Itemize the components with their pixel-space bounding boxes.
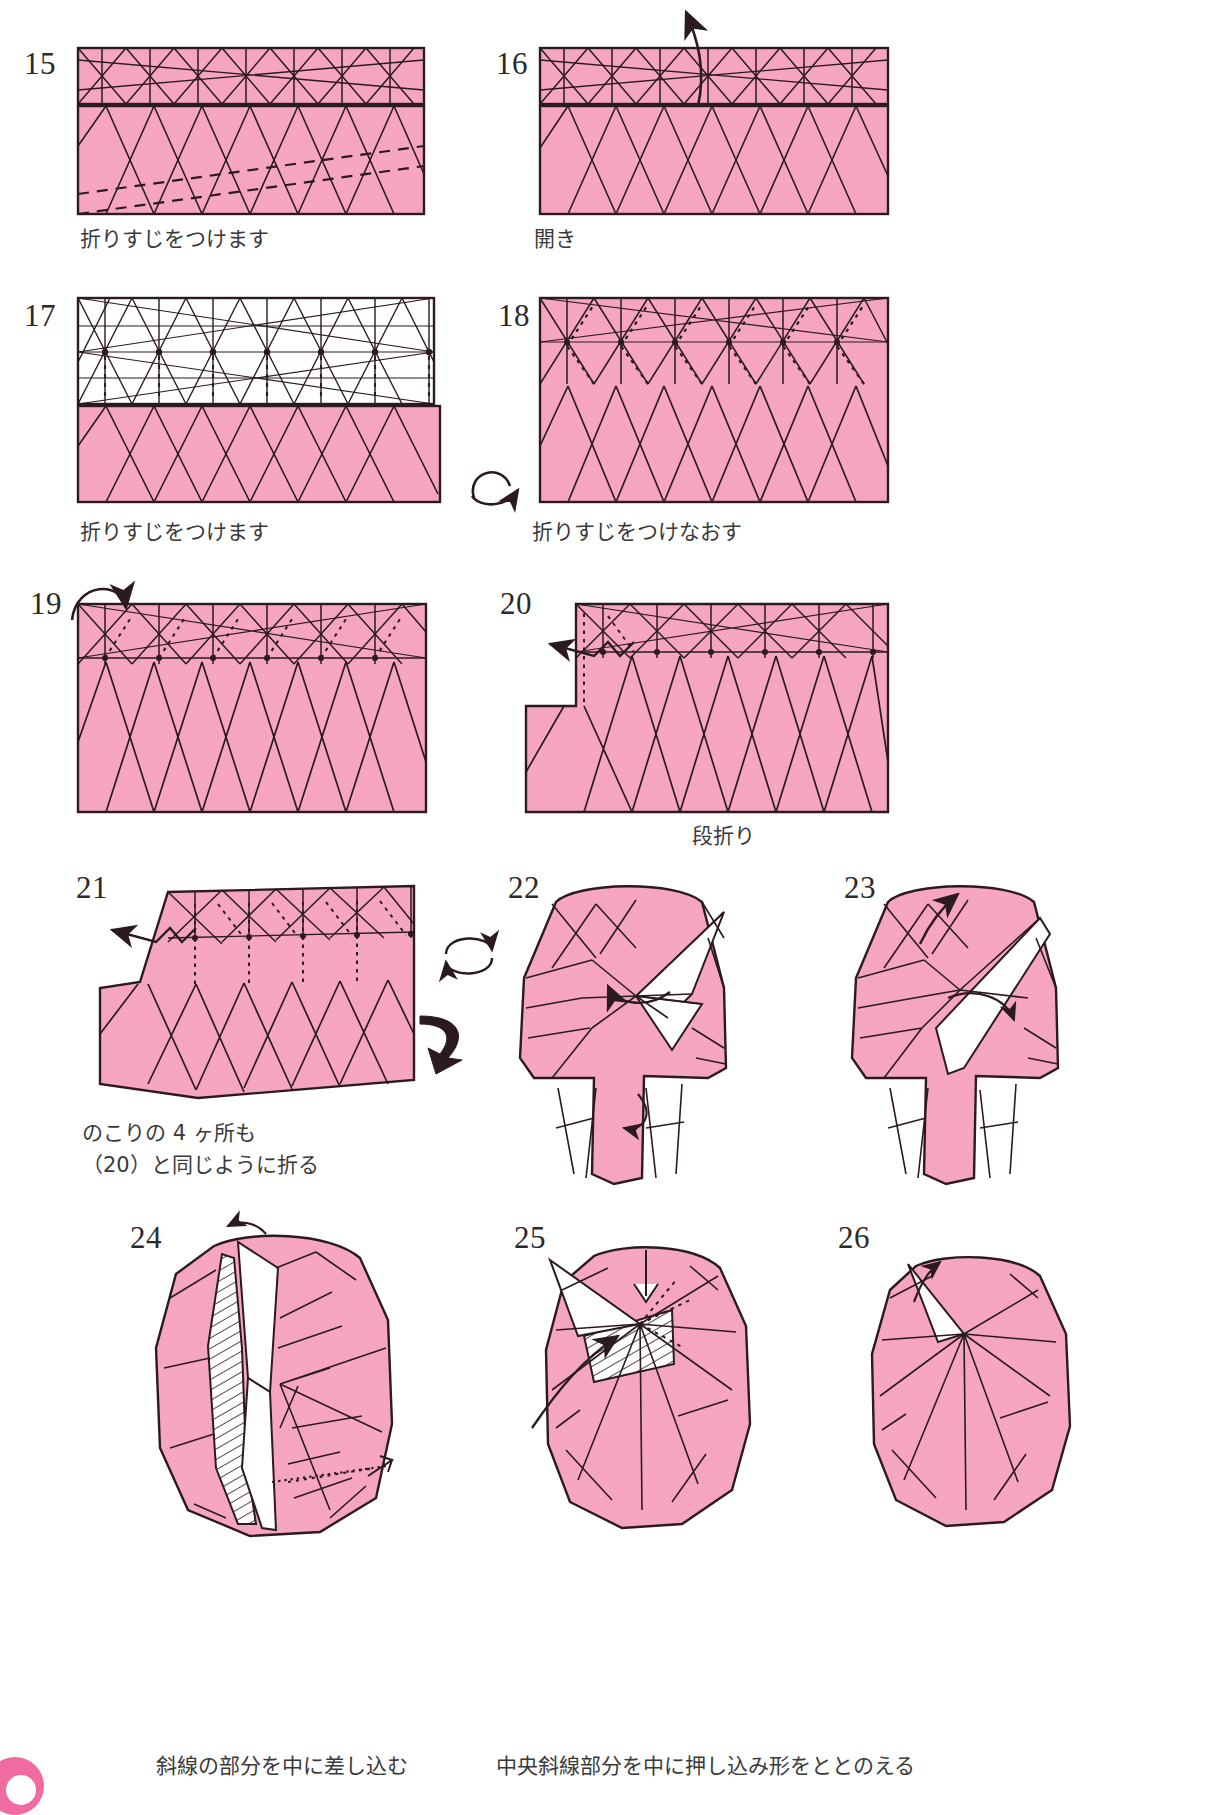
diagram-15: [76, 46, 426, 216]
diagram-18: [538, 296, 890, 504]
step-number-26: 26: [838, 1222, 870, 1253]
caption-24: 斜線の部分を中に差し込む: [156, 1752, 408, 1782]
step-panel-26: [852, 1250, 1092, 1540]
caption-25: 中央斜線部分を中に押し込み形をととのえる: [496, 1752, 915, 1782]
step-panel-18: [538, 296, 890, 504]
caption-20: 段折り: [692, 822, 755, 852]
step-panel-17: [76, 296, 440, 504]
step-panel-22: [496, 878, 746, 1198]
step-panel-25: [522, 1240, 772, 1540]
diagram-22: [496, 878, 746, 1198]
caption-16: 開き: [534, 225, 576, 255]
diagram-23: [828, 878, 1078, 1198]
caption-15: 折りすじをつけます: [80, 225, 269, 255]
step-panel-24: [130, 1228, 410, 1548]
diagram-25: [522, 1240, 772, 1540]
step-panel-23: [828, 878, 1078, 1198]
step-panel-15: [76, 46, 426, 216]
diagram-21: [78, 884, 418, 1104]
caption-17: 折りすじをつけます: [80, 518, 269, 548]
diagram-26: [852, 1250, 1092, 1540]
diagram-24: [130, 1228, 410, 1548]
page-corner-decoration-inner: [6, 1775, 36, 1805]
turn-over-icon-18: [458, 452, 538, 522]
step-number-18: 18: [498, 300, 530, 331]
step-number-17: 17: [24, 300, 56, 331]
caption-21: のこりの 4 ヶ所も （20）と同じように折る: [82, 1118, 319, 1181]
diagram-17: [76, 296, 440, 504]
step-number-15: 15: [24, 48, 56, 79]
fold-arrow-19: [52, 568, 162, 638]
open-arrow-16: [640, 0, 760, 110]
caption-18: 折りすじをつけなおす: [532, 518, 742, 548]
step-number-16: 16: [496, 48, 528, 79]
diagram-20: [524, 602, 890, 814]
step-panel-20: [524, 602, 890, 814]
flip-arrow-21: [414, 1010, 494, 1080]
step-panel-21: [78, 884, 418, 1104]
